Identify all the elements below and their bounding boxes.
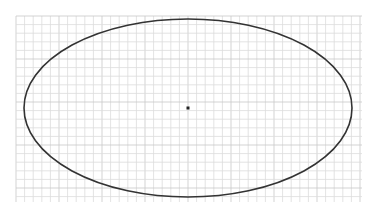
center-point-marker[interactable] <box>187 107 190 110</box>
drawing-canvas[interactable] <box>0 0 375 219</box>
